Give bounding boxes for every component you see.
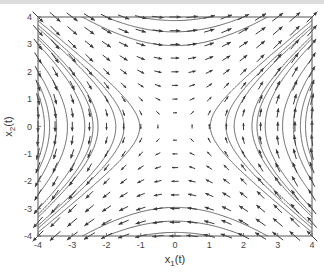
- arrow-head-icon: [88, 127, 91, 130]
- y-tick-label: -2: [24, 176, 32, 186]
- arrow-head-icon: [259, 150, 262, 154]
- arrow-head-icon: [192, 84, 195, 86]
- arrow-head-icon: [88, 99, 91, 103]
- x-tick-label: 0: [172, 240, 177, 250]
- y-tick-label: -3: [24, 204, 32, 214]
- arrow-head-icon: [155, 167, 158, 169]
- x-tick-label: 4: [309, 240, 314, 250]
- streamline: [68, 9, 282, 46]
- arrow-head-icon: [242, 123, 245, 126]
- streamline: [111, 9, 238, 21]
- arrow-head-icon: [172, 166, 175, 168]
- x-tick-label: 1: [207, 240, 212, 250]
- arrow-head-icon: [84, 222, 88, 226]
- arrow-head-icon: [142, 29, 146, 33]
- arrow-head-icon: [176, 57, 179, 60]
- arrow-head-icon: [276, 95, 279, 99]
- arrow-head-icon: [205, 207, 209, 210]
- y-tick-label: 1: [27, 94, 32, 104]
- arrow-head-icon: [261, 27, 265, 31]
- arrow-head-icon: [171, 180, 174, 183]
- arrow-head-icon: [172, 153, 174, 155]
- arrow-head-icon: [136, 207, 140, 210]
- arrow-head-icon: [171, 193, 174, 196]
- x-axis-label: x1(t): [165, 253, 185, 268]
- arrow-head-icon: [276, 122, 279, 126]
- y-axis-label: x2(t): [2, 116, 17, 136]
- y-tick-label: 3: [27, 39, 32, 49]
- arrow-head-icon: [210, 56, 214, 59]
- arrow-head-icon: [226, 110, 228, 113]
- arrow-head-icon: [105, 127, 108, 130]
- arrow-head-icon: [136, 221, 140, 224]
- arrow-head-icon: [225, 137, 227, 140]
- arrow-head-icon: [256, 219, 260, 223]
- x-tick-label: -2: [102, 240, 110, 250]
- arrow-head-icon: [293, 149, 296, 153]
- arrow-head-icon: [276, 149, 279, 153]
- arrow-head-icon: [70, 154, 73, 158]
- arrow-head-icon: [71, 127, 74, 131]
- arrow-head-icon: [205, 193, 209, 196]
- arrow-head-icon: [204, 220, 208, 224]
- arrow-head-icon: [208, 124, 210, 126]
- arrow-head-icon: [210, 29, 214, 32]
- x-tick-label: 2: [241, 240, 246, 250]
- arrow-head-icon: [137, 194, 141, 197]
- phase-portrait-chart: -4-3-2-101234 -4-3-2-101234 x1(t) x2(t): [0, 0, 324, 279]
- x-tick-label: -4: [34, 240, 42, 250]
- streamline: [283, 46, 323, 207]
- y-tick-label: -4: [24, 231, 32, 241]
- arrow-head-icon: [295, 53, 299, 57]
- plot-frame: [38, 17, 312, 236]
- arrow-head-icon: [176, 98, 178, 100]
- arrow-head-icon: [122, 140, 124, 143]
- arrow-head-icon: [90, 30, 94, 34]
- arrow-head-icon: [71, 100, 74, 104]
- y-tick-label: -1: [24, 149, 32, 159]
- streamline: [68, 207, 282, 244]
- arrow-head-icon: [141, 43, 145, 46]
- quiver-arrows: [33, 12, 318, 242]
- streamline: [28, 46, 68, 207]
- arrow-head-icon: [293, 135, 297, 139]
- arrow-head-icon: [123, 113, 125, 116]
- arrow-head-icon: [176, 84, 179, 86]
- streamline: [293, 56, 322, 196]
- y-tick-label: 4: [27, 12, 32, 22]
- streamline: [306, 72, 323, 180]
- arrow-head-icon: [54, 114, 58, 118]
- x-tick-label: 3: [275, 240, 280, 250]
- arrow-head-icon: [52, 196, 56, 200]
- arrow-head-icon: [176, 70, 179, 73]
- arrow-head-icon: [210, 42, 214, 45]
- y-tick-label: 0: [27, 122, 32, 132]
- streamline: [300, 65, 322, 189]
- x-tick-label: -3: [68, 240, 76, 250]
- arrow-head-icon: [259, 122, 262, 125]
- arrow-head-icon: [189, 166, 192, 168]
- arrow-head-icon: [158, 85, 161, 87]
- x-tick-label: -1: [137, 240, 145, 250]
- y-tick-label: 2: [27, 67, 32, 77]
- arrow-head-icon: [141, 57, 145, 60]
- arrow-head-icon: [140, 127, 142, 129]
- streamline: [28, 57, 57, 197]
